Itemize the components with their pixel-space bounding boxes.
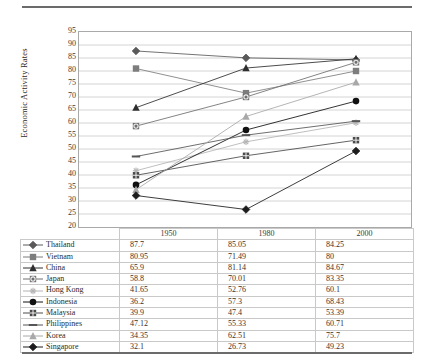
- y-tick-40: 40: [68, 170, 76, 178]
- marker-square: [133, 65, 139, 71]
- value-cell-1980: 55.33: [218, 319, 316, 330]
- value-cell-1950: 36.2: [120, 296, 218, 307]
- marker-circled-square: [133, 123, 139, 129]
- value-cell-2000: 84.67: [316, 262, 414, 273]
- marker-circle: [30, 299, 37, 306]
- y-tick-35: 35: [68, 183, 76, 191]
- marker-crossed-square: [243, 153, 249, 159]
- marker-diamond: [132, 47, 140, 55]
- marker-circle: [243, 127, 250, 134]
- legend-marker-asterisk-icon: [23, 285, 43, 295]
- table-header-row: 1950 1980 2000: [21, 229, 414, 240]
- y-tick-80: 80: [68, 66, 76, 74]
- legend-marker-crossed-square-icon: [23, 308, 43, 318]
- marker-dash: [29, 324, 37, 326]
- y-tick-70: 70: [68, 92, 76, 100]
- series-name-label: Vietnam: [46, 252, 73, 261]
- value-cell-1980: 85.05: [218, 240, 316, 251]
- marker-diamond-dark: [352, 147, 360, 155]
- value-cell-2000: 68.43: [316, 296, 414, 307]
- marker-diamond-dark: [29, 343, 37, 351]
- y-axis-tick-labels: 95908580757065605550454035302520: [46, 20, 76, 232]
- marker-dash: [242, 134, 250, 136]
- marker-dash: [132, 155, 140, 157]
- marker-diamond: [242, 54, 250, 62]
- table-corner-cell: [21, 229, 120, 240]
- y-axis-title: Economic Activity Rates: [19, 33, 29, 153]
- value-cell-2000: 75.7: [316, 330, 414, 341]
- value-cell-1950: 58.8: [120, 274, 218, 285]
- economic-activity-line-chart: Economic Activity Rates 9590858075706560…: [0, 20, 434, 232]
- legend-cell-malaysia: Malaysia: [21, 308, 120, 319]
- series-name-label: Thailand: [46, 240, 74, 249]
- y-tick-75: 75: [68, 79, 76, 87]
- value-cell-1950: 65.9: [120, 262, 218, 273]
- legend-marker-diamond-icon: [23, 240, 43, 250]
- table-row: Thailand87.785.0584.25: [21, 240, 414, 251]
- bottom-divider-rule: [22, 352, 412, 354]
- legend-cell-thailand: Thailand: [21, 240, 120, 251]
- column-header-1950: 1950: [120, 229, 218, 240]
- value-cell-2000: 53.39: [316, 308, 414, 319]
- value-cell-1950: 87.7: [120, 240, 218, 251]
- y-tick-30: 30: [68, 196, 76, 204]
- table-row: Indonesia36.257.368.43: [21, 296, 414, 307]
- marker-asterisk: [30, 287, 36, 293]
- legend-marker-dash-icon: [23, 319, 43, 329]
- series-name-label: Malaysia: [46, 308, 75, 317]
- marker-diamond: [29, 242, 37, 250]
- marker-square: [353, 68, 359, 74]
- y-tick-65: 65: [68, 105, 76, 113]
- y-tick-90: 90: [68, 40, 76, 48]
- table-row: Malaysia39.947.453.39: [21, 308, 414, 319]
- marker-crossed-square: [353, 137, 359, 143]
- table-row: Japan58.870.0183.35: [21, 274, 414, 285]
- marker-diamond-dark: [242, 206, 250, 214]
- marker-triangle: [132, 104, 139, 111]
- marker-crossed-square: [133, 172, 139, 178]
- column-header-1980: 1980: [218, 229, 316, 240]
- value-cell-1980: 71.49: [218, 251, 316, 262]
- top-divider-rule: [22, 6, 412, 8]
- y-tick-85: 85: [68, 53, 76, 61]
- marker-crossed-square: [30, 310, 36, 316]
- legend-cell-hong-kong: Hong Kong: [21, 285, 120, 296]
- table-row: Philippines47.1255.3360.71: [21, 319, 414, 330]
- value-cell-1950: 47.12: [120, 319, 218, 330]
- value-cell-2000: 83.35: [316, 274, 414, 285]
- table-row: Vietnam80.9571.4980: [21, 251, 414, 262]
- y-tick-50: 50: [68, 144, 76, 152]
- table-row: Hong Kong41.6552.7660.1: [21, 285, 414, 296]
- y-tick-55: 55: [68, 131, 76, 139]
- series-name-label: Singapore: [46, 342, 78, 351]
- series-name-label: Hong Kong: [46, 285, 84, 294]
- marker-circled-square: [30, 276, 36, 282]
- y-tick-25: 25: [68, 209, 76, 217]
- value-cell-1950: 39.9: [120, 308, 218, 319]
- legend-cell-japan: Japan: [21, 274, 120, 285]
- marker-circled-square: [243, 94, 249, 100]
- series-value-table: 1950 1980 2000 Thailand87.785.0584.25Vie…: [20, 228, 414, 353]
- marker-square: [30, 254, 36, 260]
- legend-marker-triangle-light-icon: [23, 331, 43, 341]
- legend-cell-indonesia: Indonesia: [21, 296, 120, 307]
- value-cell-1980: 47.4: [218, 308, 316, 319]
- value-cell-1950: 80.95: [120, 251, 218, 262]
- value-cell-2000: 84.25: [316, 240, 414, 251]
- series-name-label: Indonesia: [46, 297, 77, 306]
- legend-marker-diamond-dark-icon: [23, 342, 43, 352]
- value-cell-1980: 81.14: [218, 262, 316, 273]
- legend-cell-philippines: Philippines: [21, 319, 120, 330]
- data-table-legend: 1950 1980 2000 Thailand87.785.0584.25Vie…: [20, 228, 413, 353]
- value-cell-1980: 62.51: [218, 330, 316, 341]
- legend-marker-circle-icon: [23, 297, 43, 307]
- table-row: China65.981.1484.67: [21, 262, 414, 273]
- y-tick-45: 45: [68, 157, 76, 165]
- marker-asterisk: [243, 139, 249, 145]
- column-header-2000: 2000: [316, 229, 414, 240]
- y-tick-95: 95: [68, 27, 76, 35]
- plot-svg: [79, 32, 411, 227]
- value-cell-2000: 80: [316, 251, 414, 262]
- legend-marker-triangle-icon: [23, 263, 43, 273]
- legend-marker-circled-square-icon: [23, 274, 43, 284]
